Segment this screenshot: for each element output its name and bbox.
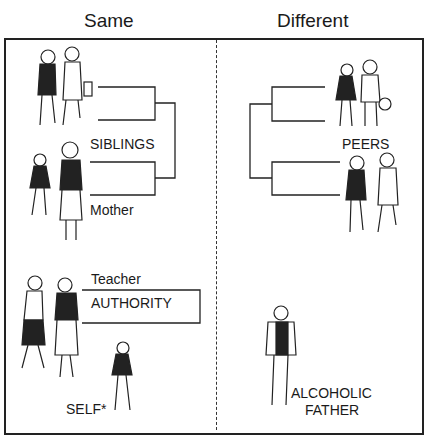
teacher-label: Teacher — [91, 271, 141, 287]
siblings-label: SIBLINGS — [90, 136, 155, 152]
authority-label: AUTHORITY — [91, 295, 172, 311]
self-label: SELF* — [66, 401, 106, 417]
peers-label: PEERS — [342, 136, 389, 152]
peers-outer-bracket — [250, 104, 272, 178]
father-label-line1: ALCOHOLIC — [291, 385, 372, 401]
siblings-top-bracket — [98, 87, 155, 120]
peer-pair-2-figure — [346, 153, 398, 232]
siblings-outer-bracket — [155, 103, 175, 178]
mother-label: Mother — [90, 202, 134, 218]
siblings-bottom-bracket — [90, 162, 155, 195]
sibling-pair-figure — [38, 47, 92, 125]
father-label-line2: FATHER — [305, 402, 359, 418]
girl-mother-figure — [30, 142, 82, 240]
bracket-lines — [0, 0, 427, 439]
teachers-figure — [22, 276, 78, 377]
peer-pair-figure — [336, 60, 391, 126]
self-child-figure — [112, 342, 132, 410]
peers-top-bracket — [272, 87, 325, 121]
peers-bottom-bracket — [272, 162, 340, 195]
